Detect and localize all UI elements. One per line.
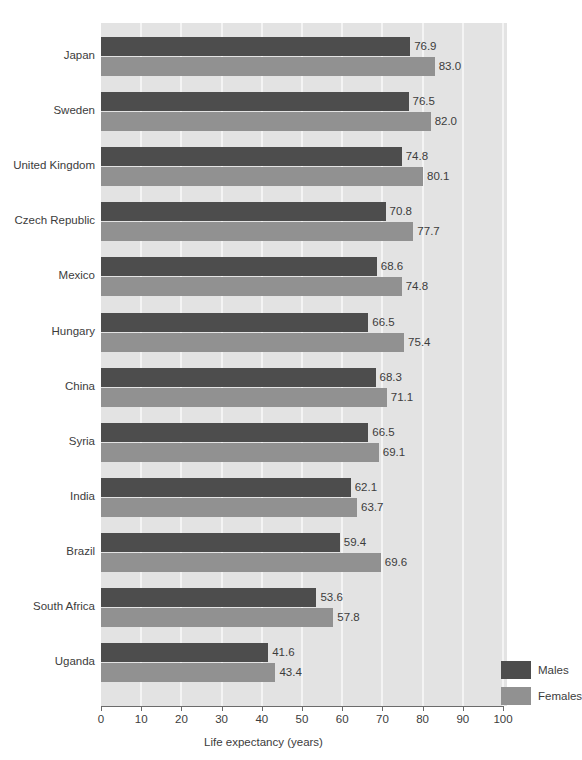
x-axis-tick-label: 80 — [416, 713, 429, 725]
bar-value-label: 68.6 — [381, 257, 403, 276]
x-axis-tick — [463, 706, 464, 711]
bar-female — [101, 277, 402, 296]
bar-female — [101, 333, 404, 352]
bar-groups: 76.983.076.582.074.880.170.877.768.674.8… — [101, 23, 507, 706]
bar-female — [101, 443, 379, 462]
bar-male — [101, 92, 409, 111]
bar-male — [101, 257, 377, 276]
x-axis-tick — [181, 706, 182, 711]
category-label: Japan — [0, 49, 95, 61]
bar-male — [101, 588, 316, 607]
bar-group: 59.469.6 — [101, 533, 507, 572]
x-axis-tick-label: 0 — [98, 713, 104, 725]
bar-value-label: 66.5 — [372, 423, 394, 442]
bar-female — [101, 388, 387, 407]
x-axis-tick — [262, 706, 263, 711]
x-axis-tick — [342, 706, 343, 711]
bar-group: 76.582.0 — [101, 92, 507, 131]
category-label: Sweden — [0, 104, 95, 116]
category-label: Czech Republic — [0, 214, 95, 226]
x-axis-title: Life expectancy (years) — [0, 736, 527, 748]
bar-male — [101, 423, 368, 442]
bar-value-label: 68.3 — [380, 368, 402, 387]
x-axis-tick-label: 70 — [376, 713, 389, 725]
category-label: Hungary — [0, 325, 95, 337]
bar-value-label: 41.6 — [272, 643, 294, 662]
x-axis-tick-label: 10 — [135, 713, 148, 725]
x-axis-tick — [141, 706, 142, 711]
category-label: China — [0, 380, 95, 392]
bar-value-label: 76.5 — [413, 92, 435, 111]
bar-group: 62.163.7 — [101, 478, 507, 517]
bar-value-label: 57.8 — [337, 608, 359, 627]
x-axis-tick — [222, 706, 223, 711]
x-axis-tick-label: 20 — [175, 713, 188, 725]
bar-female — [101, 608, 333, 627]
bar-value-label: 66.5 — [372, 313, 394, 332]
bar-value-label: 69.1 — [383, 443, 405, 462]
bar-male — [101, 202, 386, 221]
bar-group: 70.877.7 — [101, 202, 507, 241]
category-label: Mexico — [0, 269, 95, 281]
x-axis-tick-label: 90 — [456, 713, 469, 725]
bar-male — [101, 533, 340, 552]
bar-value-label: 69.6 — [385, 553, 407, 572]
bar-value-label: 75.4 — [408, 333, 430, 352]
legend-label: Males — [538, 660, 569, 680]
bar-group: 68.371.1 — [101, 368, 507, 407]
bar-value-label: 71.1 — [391, 388, 413, 407]
bar-female — [101, 553, 381, 572]
bar-group: 41.643.4 — [101, 643, 507, 682]
legend-swatch — [501, 661, 531, 679]
bar-value-label: 82.0 — [435, 112, 457, 131]
bar-female — [101, 167, 423, 186]
x-axis-tick — [423, 706, 424, 711]
x-axis-tick — [101, 706, 102, 711]
x-axis-tick-label: 50 — [296, 713, 309, 725]
bar-value-label: 74.8 — [406, 147, 428, 166]
bar-female — [101, 222, 413, 241]
bar-value-label: 59.4 — [344, 533, 366, 552]
bar-female — [101, 112, 431, 131]
bar-value-label: 76.9 — [414, 37, 436, 56]
x-axis-tick — [503, 706, 504, 711]
bar-male — [101, 37, 410, 56]
bar-male — [101, 147, 402, 166]
bar-group: 76.983.0 — [101, 37, 507, 76]
bar-male — [101, 643, 268, 662]
category-axis-labels: JapanSwedenUnited KingdomCzech RepublicM… — [0, 23, 95, 706]
x-axis-tick-label: 60 — [336, 713, 349, 725]
bar-value-label: 74.8 — [406, 277, 428, 296]
category-label: Uganda — [0, 655, 95, 667]
bar-value-label: 53.6 — [320, 588, 342, 607]
x-axis-tick-label: 30 — [215, 713, 228, 725]
bar-group: 66.569.1 — [101, 423, 507, 462]
bar-group: 66.575.4 — [101, 313, 507, 352]
bar-male — [101, 368, 376, 387]
bar-group: 68.674.8 — [101, 257, 507, 296]
bar-male — [101, 478, 351, 497]
plot-area: 76.983.076.582.074.880.170.877.768.674.8… — [101, 23, 507, 706]
category-label: India — [0, 490, 95, 502]
x-axis-tick-label: 40 — [255, 713, 268, 725]
bar-male — [101, 313, 368, 332]
category-label: South Africa — [0, 600, 95, 612]
legend-label: Females — [538, 686, 582, 706]
legend-swatch — [501, 687, 531, 705]
category-label: Brazil — [0, 545, 95, 557]
bar-value-label: 80.1 — [427, 167, 449, 186]
x-axis-tick — [302, 706, 303, 711]
category-label: United Kingdom — [0, 159, 95, 171]
bar-value-label: 62.1 — [355, 478, 377, 497]
bar-value-label: 63.7 — [361, 498, 383, 517]
bar-female — [101, 663, 275, 682]
bar-value-label: 77.7 — [417, 222, 439, 241]
bar-value-label: 43.4 — [279, 663, 301, 682]
bar-group: 53.657.8 — [101, 588, 507, 627]
bar-value-label: 70.8 — [390, 202, 412, 221]
bar-group: 74.880.1 — [101, 147, 507, 186]
x-axis-tick-label: 100 — [493, 713, 512, 725]
category-label: Syria — [0, 435, 95, 447]
bar-female — [101, 57, 435, 76]
